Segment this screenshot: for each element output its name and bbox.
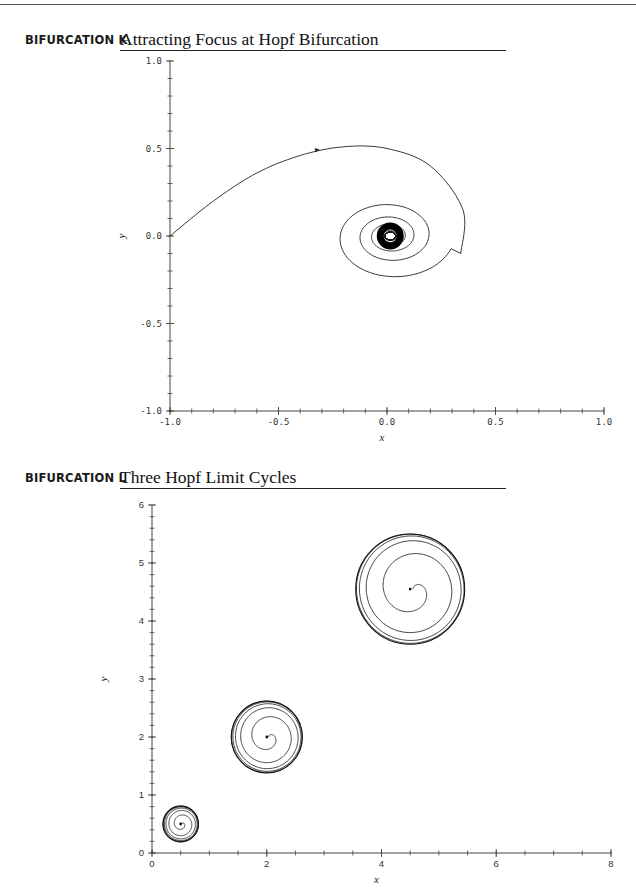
y-tick-label: 2 <box>139 731 144 742</box>
y-tick-label: 0 <box>139 847 144 858</box>
y-tick-label: 1 <box>139 789 144 800</box>
x-tick-label: 2 <box>264 858 269 869</box>
cycle-2-center-point <box>265 736 268 739</box>
x-tick-label: 4 <box>379 858 384 869</box>
y-tick-label: 4 <box>139 615 144 626</box>
x-tick-label: 8 <box>608 858 613 869</box>
x-axis-title: x <box>373 873 379 885</box>
axes: 024680123456 <box>139 499 614 869</box>
plot-area <box>163 534 465 842</box>
x-tick-label: 0 <box>149 858 154 869</box>
cycle-3-center-point <box>409 588 412 591</box>
y-tick-label: 6 <box>139 499 144 510</box>
chart-bifurcation-l: 024680123456 x y <box>0 0 636 889</box>
x-tick-label: 6 <box>494 858 499 869</box>
y-tick-label: 3 <box>139 673 144 684</box>
y-axis-title: y <box>97 676 109 682</box>
cycle-1-center-point <box>179 823 182 826</box>
y-tick-label: 5 <box>139 557 144 568</box>
